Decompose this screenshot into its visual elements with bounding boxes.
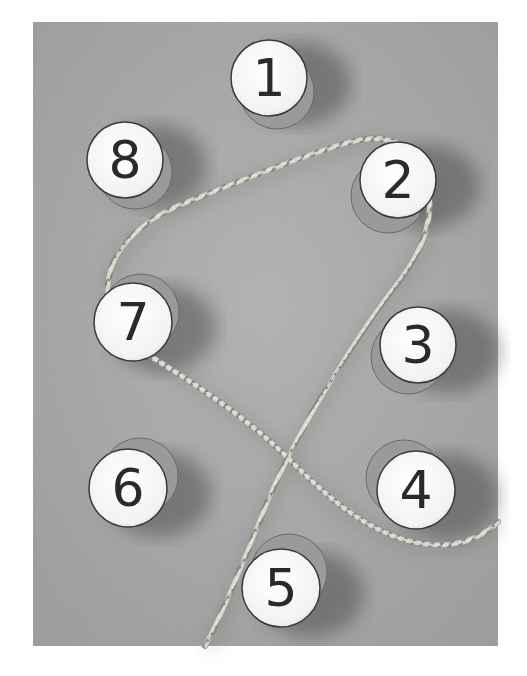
disk-number-label: 6 bbox=[111, 458, 144, 518]
disk-number-label: 3 bbox=[401, 315, 434, 375]
disk-number-label: 8 bbox=[108, 130, 141, 190]
disk-number-label: 2 bbox=[381, 150, 414, 210]
disk-number-label: 4 bbox=[399, 460, 432, 520]
disk-number-label: 1 bbox=[252, 48, 285, 108]
photograph: 12345678 bbox=[0, 0, 527, 676]
disk-number-label: 5 bbox=[264, 558, 297, 618]
disk-number-label: 7 bbox=[116, 292, 149, 352]
